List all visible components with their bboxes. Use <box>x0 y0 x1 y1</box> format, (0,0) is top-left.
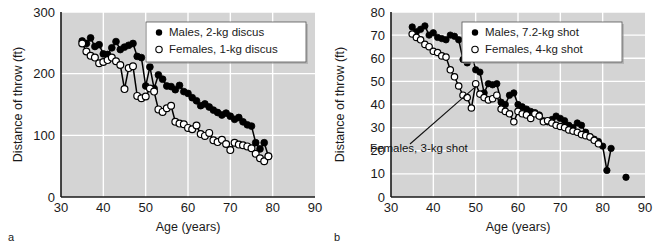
data-point-male <box>604 167 610 173</box>
x-tick-label: 60 <box>181 200 195 215</box>
data-point-male <box>248 123 255 130</box>
data-point-female <box>536 113 542 119</box>
data-point-male <box>578 122 584 128</box>
x-tick-label: 40 <box>426 200 440 215</box>
y-tick-label: 10 <box>371 166 385 181</box>
data-point-male <box>422 23 428 29</box>
legend-label: Males, 2-kg discus <box>169 26 264 38</box>
data-point-female <box>130 63 137 70</box>
x-tick-label: 50 <box>468 200 482 215</box>
chart-panel-b: 0102030405060708030405060708090Age (year… <box>328 0 657 248</box>
legend-marker-male <box>156 29 162 35</box>
y-axis-title: Distance of throw (ft) <box>333 47 347 162</box>
legend-label: Females, 1-kg discus <box>169 43 278 55</box>
x-tick-label: 70 <box>553 200 567 215</box>
x-tick-label: 50 <box>138 200 152 215</box>
x-tick-label: 30 <box>384 200 398 215</box>
data-point-male <box>494 81 500 87</box>
x-tick-label: 40 <box>96 200 110 215</box>
data-point-female <box>506 111 512 117</box>
x-tick-label: 90 <box>638 200 652 215</box>
y-tick-label: 50 <box>371 74 385 89</box>
data-point-female <box>193 122 200 129</box>
data-point-female <box>121 86 128 93</box>
data-point-female <box>117 62 124 69</box>
x-axis-title: Age (years) <box>486 220 551 234</box>
data-point-male <box>477 69 483 75</box>
data-point-female <box>447 67 453 73</box>
data-point-male <box>623 174 629 180</box>
x-tick-label: 30 <box>54 200 68 215</box>
y-tick-label: 60 <box>371 51 385 66</box>
data-point-female <box>595 141 601 147</box>
y-tick-label: 30 <box>371 120 385 135</box>
x-tick-label: 70 <box>223 200 237 215</box>
data-point-male <box>176 82 183 89</box>
data-point-female <box>443 54 449 60</box>
y-tick-label: 300 <box>33 5 55 20</box>
y-axis-title: Distance of throw (ft) <box>11 47 25 162</box>
data-point-female <box>79 40 86 47</box>
panel-a-letter: a <box>8 231 14 243</box>
data-point-female <box>451 74 457 80</box>
data-point-female <box>227 147 234 154</box>
data-point-male <box>113 38 120 45</box>
data-point-female <box>223 141 230 148</box>
legend-marker-female <box>156 46 162 52</box>
data-point-male <box>130 40 137 47</box>
panel-b-plot: 0102030405060708030405060708090Age (year… <box>328 0 657 248</box>
y-tick-label: 80 <box>371 5 385 20</box>
y-tick-label: 200 <box>33 66 55 81</box>
data-point-male <box>159 76 166 83</box>
data-point-female <box>456 83 462 89</box>
x-axis-title: Age (years) <box>156 220 221 234</box>
data-point-male <box>261 139 268 146</box>
data-point-male <box>456 37 462 43</box>
data-point-female <box>206 130 213 137</box>
x-tick-label: 80 <box>265 200 279 215</box>
legend-marker-female <box>472 46 478 52</box>
data-point-female <box>142 93 149 100</box>
y-tick-label: 100 <box>33 128 55 143</box>
data-point-male <box>147 64 154 71</box>
data-point-female <box>151 88 158 95</box>
data-point-male <box>96 41 103 48</box>
legend-label: Males, 7.2-kg shot <box>485 26 580 38</box>
data-point-male <box>138 54 145 61</box>
data-point-male <box>511 90 517 96</box>
data-point-female <box>494 92 500 98</box>
data-point-male <box>608 145 614 151</box>
panel-b-letter: b <box>334 231 340 243</box>
data-point-female <box>468 105 474 111</box>
y-tick-label: 70 <box>371 28 385 43</box>
x-tick-label: 80 <box>595 200 609 215</box>
x-tick-label: 60 <box>511 200 525 215</box>
data-point-male <box>108 44 115 51</box>
panel-a-plot: 010020030030405060708090Age (years)Dista… <box>0 0 328 248</box>
x-tick-label: 90 <box>308 200 322 215</box>
data-point-male <box>87 35 94 42</box>
data-point-female <box>473 81 479 87</box>
data-point-female <box>511 119 517 125</box>
legend-label: Females, 4-kg shot <box>485 43 584 55</box>
data-point-female <box>265 153 272 160</box>
y-tick-label: 40 <box>371 97 385 112</box>
annotation-label: Females, 3-kg shot <box>370 142 469 154</box>
chart-panel-a: 010020030030405060708090Age (years)Dista… <box>0 0 328 248</box>
legend-marker-male <box>472 29 478 35</box>
figure-container: 010020030030405060708090Age (years)Dista… <box>0 0 657 248</box>
data-point-female <box>168 102 175 109</box>
